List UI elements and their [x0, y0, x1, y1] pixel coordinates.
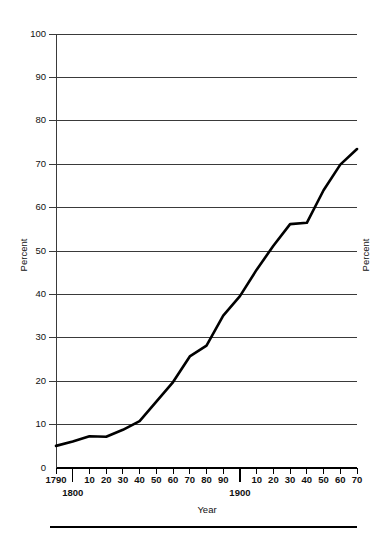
x-tick-label-1870: 70: [184, 474, 195, 485]
x-tick-label-1970: 70: [352, 474, 363, 485]
x-major-label-1900: 1900: [229, 487, 250, 498]
y-tick-label-80: 80: [35, 114, 46, 125]
x-axis-title: Year: [197, 504, 216, 515]
y-tick-stubs-group: [49, 34, 56, 425]
x-tick-label-1820: 20: [101, 474, 112, 485]
y-tick-label-90: 90: [35, 71, 46, 82]
x-tick-label-1890: 90: [218, 474, 229, 485]
gridlines-group: [56, 34, 357, 425]
x-tick-label-1830: 30: [118, 474, 129, 485]
y-tick-label-0: 0: [41, 462, 46, 473]
x-axis-group: [56, 34, 357, 482]
x-tick-label-1790: 1790: [45, 474, 66, 485]
x-tick-label-1850: 50: [151, 474, 162, 485]
x-tick-label-1880: 80: [201, 474, 212, 485]
x-tick-label-1840: 40: [134, 474, 145, 485]
y-tick-label-50: 50: [35, 245, 46, 256]
x-tick-label-1960: 60: [335, 474, 346, 485]
y-tick-label-30: 30: [35, 331, 46, 342]
y-axis-title-right: Percent: [360, 238, 371, 271]
x-tick-label-1940: 40: [302, 474, 313, 485]
y-tick-label-10: 10: [35, 418, 46, 429]
chart-figure: 0102030405060708090100 17901020304050607…: [0, 0, 388, 544]
y-tick-label-40: 40: [35, 288, 46, 299]
x-tick-label-1930: 30: [285, 474, 296, 485]
line-chart-svg: 0102030405060708090100 17901020304050607…: [0, 0, 388, 544]
x-tick-label-1950: 50: [318, 474, 329, 485]
y-tick-label-100: 100: [30, 28, 46, 39]
x-tick-label-1920: 20: [268, 474, 279, 485]
x-tick-label-1910: 10: [251, 474, 262, 485]
x-tick-label-1860: 60: [168, 474, 179, 485]
data-line-percent-urban: [56, 149, 357, 446]
y-tick-label-70: 70: [35, 158, 46, 169]
x-major-label-1800: 1800: [62, 487, 83, 498]
y-axis-title-left: Percent: [18, 238, 29, 271]
y-tick-label-20: 20: [35, 375, 46, 386]
y-tick-label-60: 60: [35, 201, 46, 212]
x-major-tick-labels-group: 18001900: [62, 487, 250, 498]
x-tick-label-1810: 10: [84, 474, 95, 485]
y-tick-labels-group: 0102030405060708090100: [30, 28, 46, 473]
x-tick-labels-group: 179010203040506070809010203040506070: [45, 474, 362, 485]
